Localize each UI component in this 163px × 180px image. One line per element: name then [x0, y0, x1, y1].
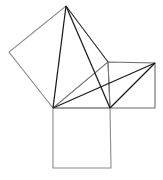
- geometry-figure-svg: [0, 0, 163, 180]
- geometry-figure-canvas: Pythagorean theorem square construction …: [0, 0, 163, 180]
